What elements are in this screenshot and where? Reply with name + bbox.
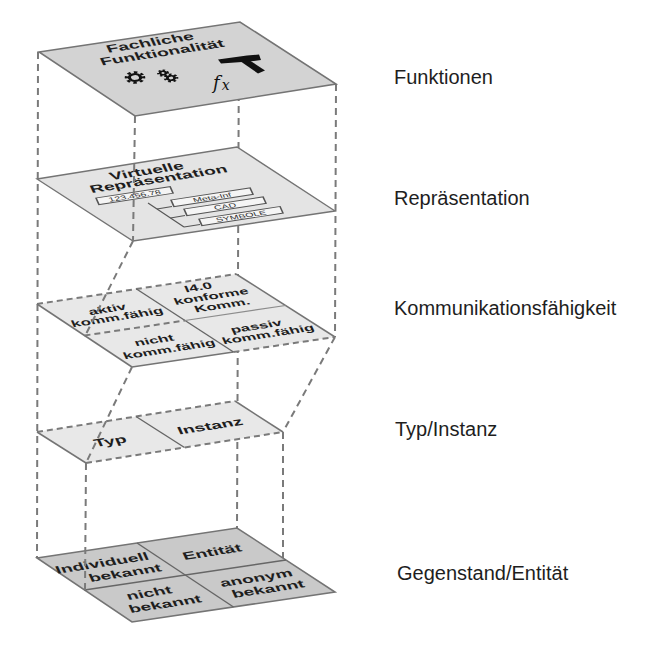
plane-type-instance: Typ Instanz bbox=[37, 401, 283, 463]
plane-functions: Fachliche Funktionalität fx bbox=[39, 22, 336, 116]
layer-label-gegenstand-entitaet: Gegenstand/Entität bbox=[397, 562, 569, 584]
layer-label-funktionen: Funktionen bbox=[394, 66, 493, 88]
diagram-canvas: Individuell bekannt Entität nicht bekann… bbox=[0, 0, 656, 645]
layer-labels: Funktionen Repräsentation Kommunikations… bbox=[394, 66, 617, 584]
layer-label-repraesentation: Repräsentation bbox=[394, 187, 530, 209]
layer-model-diagram: Individuell bekannt Entität nicht bekann… bbox=[0, 0, 656, 645]
plane-entity: Individuell bekannt Entität nicht bekann… bbox=[37, 528, 335, 622]
layer-label-typ-instanz: Typ/Instanz bbox=[395, 418, 497, 440]
fx-x: x bbox=[222, 77, 230, 93]
plane-representation: Virtuelle Repräsentation 123.456.78 Meta… bbox=[37, 147, 335, 241]
layer-label-kommunikationsfaehigkeit: Kommunikationsfähigkeit bbox=[394, 297, 617, 319]
right-diagonal-guide bbox=[283, 337, 335, 432]
plane-communication: aktiv komm.fähig I4.0 konforme Komm. nic… bbox=[37, 274, 335, 367]
